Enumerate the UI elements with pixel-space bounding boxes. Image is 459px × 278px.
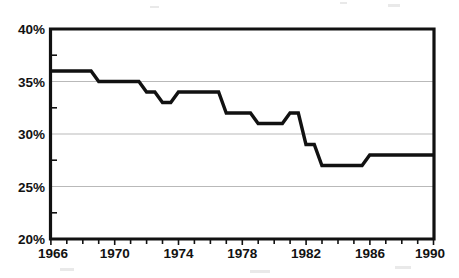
x-tick-label-1966: 1966 (38, 246, 69, 261)
y-tick-label-30: 30% (18, 127, 45, 142)
gridlines (51, 82, 433, 187)
y-tick-label-40: 40% (18, 22, 45, 37)
y-tick-label-25: 25% (18, 180, 45, 195)
data-series-line (51, 71, 434, 166)
x-tick-label-1974: 1974 (163, 246, 194, 261)
x-tick-label-1978: 1978 (227, 246, 258, 261)
x-tick-label-1990: 1990 (415, 246, 445, 261)
x-tick-label-1982: 1982 (291, 246, 321, 261)
line-chart: 40% 35% 30% 25% 20% 1966 1970 1974 1978 … (0, 0, 459, 278)
chart-container: 40% 35% 30% 25% 20% 1966 1970 1974 1978 … (0, 0, 459, 278)
x-tick-label-1986: 1986 (355, 246, 386, 261)
y-tick-label-20: 20% (18, 232, 45, 247)
y-tick-label-35: 35% (18, 75, 45, 90)
x-tick-label-1970: 1970 (100, 246, 130, 261)
scan-artifacts (60, 2, 411, 273)
